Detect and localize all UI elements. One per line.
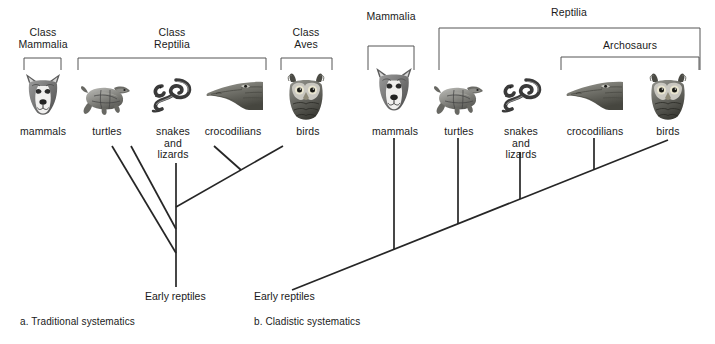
group-label-class-reptilia: Class Reptilia bbox=[141, 27, 203, 50]
crocodile-head-icon-b bbox=[565, 76, 627, 116]
group-label-class-aves: Class Aves bbox=[275, 27, 337, 50]
owl-head-icon-b bbox=[645, 70, 691, 122]
taxon-label-snakes-and-lizards-b: snakes and lizards bbox=[493, 126, 549, 161]
bracket-class-aves bbox=[281, 58, 332, 70]
taxon-label-mammals-b: mammals bbox=[364, 126, 426, 138]
dog-head-icon-b bbox=[373, 67, 415, 117]
group-label-class-mammalia: Class Mammalia bbox=[12, 27, 74, 50]
turtle-icon-b bbox=[433, 82, 485, 116]
root-label-b: Early reptiles bbox=[254, 290, 315, 302]
group-label-mammalia: Mammalia bbox=[360, 11, 422, 23]
snake-icon-a bbox=[148, 74, 194, 116]
taxon-label-crocodilians-a: crocodilians bbox=[198, 126, 268, 138]
root-label-a: Early reptiles bbox=[145, 290, 206, 302]
panel-caption-b: b. Cladistic systematics bbox=[254, 316, 360, 327]
branch-mammals-a bbox=[112, 146, 176, 253]
cladogram-backbone-b bbox=[292, 140, 668, 290]
taxon-label-crocodilians-b: crocodilians bbox=[559, 126, 631, 138]
dog-head-icon-a bbox=[23, 73, 63, 121]
taxon-label-birds-a: birds bbox=[281, 126, 335, 138]
taxon-label-turtles-a: turtles bbox=[76, 126, 138, 138]
branch-crocodilians-a bbox=[214, 146, 241, 170]
turtle-icon-a bbox=[80, 82, 132, 116]
snake-icon-b bbox=[498, 74, 544, 116]
taxon-label-snakes-and-lizards-a: snakes and lizards bbox=[145, 126, 201, 161]
taxon-label-mammals-a: mammals bbox=[12, 126, 74, 138]
owl-head-icon-a bbox=[283, 70, 329, 122]
bracket-archosaurs bbox=[561, 57, 699, 70]
phylogeny-figure: Class Mammalia Class Reptilia Class Aves bbox=[0, 0, 715, 344]
diagram-lines bbox=[0, 0, 715, 344]
bracket-class-reptilia bbox=[78, 58, 266, 70]
taxon-label-turtles-b: turtles bbox=[428, 126, 490, 138]
group-label-archosaurs: Archosaurs bbox=[597, 40, 663, 52]
group-label-reptilia: Reptilia bbox=[538, 7, 600, 19]
panel-caption-a: a. Traditional systematics bbox=[20, 316, 135, 327]
taxon-label-birds-b: birds bbox=[641, 126, 695, 138]
crocodile-head-icon-a bbox=[205, 76, 267, 116]
bracket-class-mammalia bbox=[24, 58, 61, 70]
